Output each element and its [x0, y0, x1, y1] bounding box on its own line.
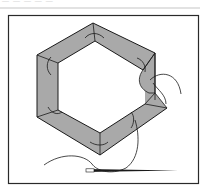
hexagon-sewing-illustration — [0, 0, 205, 190]
